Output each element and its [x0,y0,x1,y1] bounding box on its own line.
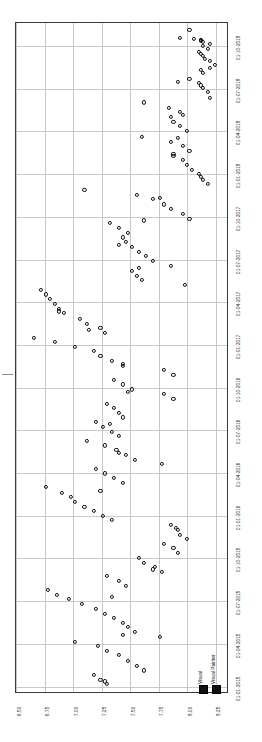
gridline-horizontal [16,473,227,474]
data-point-visual [112,378,116,382]
data-point-visual [123,453,127,457]
data-point-visual [135,273,139,277]
gridline-vertical [159,23,160,692]
gridline-horizontal [16,388,227,389]
date-axis-tick: 01-01-2017 [236,334,241,359]
data-point-visual [46,588,50,592]
data-point-visual [110,359,114,363]
data-point-visual [151,197,155,201]
data-point-visual [62,311,66,315]
data-point-visual [82,188,86,192]
data-point-visual [101,425,105,429]
date-axis-tick: 01-10-2017 [236,206,241,231]
data-point-visual [105,402,109,406]
data-point-visual [121,235,125,239]
data-point-visual [187,217,191,221]
data-point-visual [94,420,98,424]
data-point-visual-painter [176,136,180,140]
data-point-visual [117,226,121,230]
value-axis-tick: 8.00 [188,707,193,716]
data-point-visual [110,518,114,522]
gridline-horizontal [16,516,227,517]
gridline-horizontal [16,644,227,645]
data-point-visual-painter [137,266,141,270]
value-axis-tick: 7.75 [159,707,164,716]
data-point-visual [171,397,175,401]
data-point-visual [117,434,121,438]
gridline-vertical [102,23,103,692]
gridline-vertical [216,23,217,692]
data-point-visual [96,644,100,648]
legend-item-visual-painter[interactable]: Visual Painter [211,648,224,694]
value-axis-tick: 6.75 [45,707,50,716]
value-axis-tick: 7.50 [131,707,136,716]
data-point-visual [208,96,212,100]
data-point-visual [53,302,57,306]
data-point-visual-painter [142,218,146,222]
date-axis-tick: 01-07-2016 [236,420,241,445]
data-point-visual [32,335,36,339]
data-point-visual-painter [57,309,61,313]
data-point-visual [144,254,148,258]
data-point-visual [117,411,121,415]
data-point-visual [137,250,141,254]
date-axis-tick: 01-07-2017 [236,249,241,274]
data-point-visual [142,668,146,672]
data-point-visual-painter [180,113,184,117]
gridline-horizontal [16,601,227,602]
data-point-visual [101,514,105,518]
data-point-visual [112,406,116,410]
data-point-visual [185,537,189,541]
data-point-visual-painter [117,451,121,455]
date-axis-tick: 01-04-2018 [236,121,241,146]
legend-item-visual[interactable]: Visual [198,648,211,694]
data-point-visual [105,574,109,578]
gridline-vertical [130,23,131,692]
value-axis-tick: 8.25 [216,707,221,716]
data-point-visual [103,443,107,447]
data-point-visual [185,163,189,167]
gridline-horizontal [16,89,227,90]
data-point-visual [167,106,171,110]
data-point-visual [117,579,121,583]
legend-swatch [199,685,208,694]
scatter-chart-figure: 6.506.757.007.257.507.758.008.25 01-10-2… [0,0,262,742]
data-point-visual [112,616,116,620]
date-axis-tick: 01-10-2018 [236,36,241,61]
date-axis-tick: 01-10-2015 [236,548,241,573]
value-axis-tick: 7.25 [102,707,107,716]
data-point-visual [192,37,196,41]
date-axis-tick: 01-07-2015 [236,591,241,616]
gridline-horizontal [16,131,227,132]
data-point-visual [73,500,77,504]
data-point-visual [94,607,98,611]
data-point-visual [206,182,210,186]
data-point-visual [160,570,164,574]
gridline-vertical [73,23,74,692]
data-point-visual [187,149,191,153]
data-point-visual [180,158,184,162]
data-point-visual [48,297,52,301]
data-point-visual-painter [158,195,162,199]
data-point-visual [80,602,84,606]
data-point-visual [123,240,127,244]
data-point-visual [85,439,89,443]
data-point-visual [130,268,134,272]
gridline-vertical [45,23,46,692]
gridline-horizontal [16,687,227,688]
data-point-visual [121,621,125,625]
gridline-horizontal [16,260,227,261]
data-point-visual [151,259,155,263]
data-point-visual-painter [206,47,210,51]
data-point-visual [158,635,162,639]
date-axis-tick: 01-10-2016 [236,377,241,402]
data-point-visual [107,221,111,225]
data-point-visual [94,467,98,471]
data-point-visual [103,331,107,335]
data-point-visual [92,673,96,677]
data-point-visual [39,288,43,292]
data-point-visual [190,168,194,172]
date-axis-tick: 01-01-2015 [236,676,241,701]
data-point-visual [135,193,139,197]
data-point-visual [60,491,64,495]
